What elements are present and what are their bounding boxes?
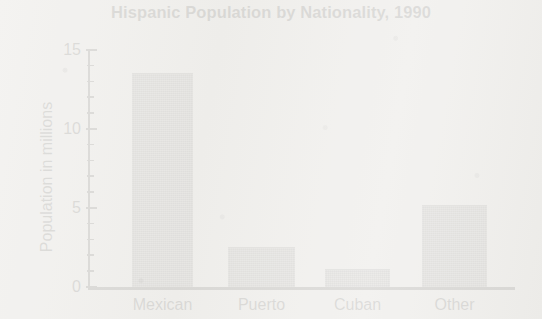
y-tick-major	[86, 128, 97, 130]
chart-title: Hispanic Population by Nationality, 1990	[0, 3, 542, 22]
y-axis-label: Population in millions	[38, 62, 56, 292]
y-tick-minor	[87, 191, 94, 193]
y-tick-label: 5	[41, 200, 81, 216]
x-axis-category-label: Other	[434, 296, 474, 314]
y-tick-minor	[87, 81, 94, 83]
y-tick-minor	[87, 96, 94, 98]
y-tick-minor	[87, 254, 94, 256]
x-axis-category-label: Puerto	[238, 296, 285, 314]
y-tick-minor	[87, 65, 94, 67]
x-axis-category-label: Mexican	[133, 296, 193, 314]
y-tick-major	[86, 49, 97, 51]
plot-area: 151050 MexicanPuertoCubanOther	[88, 46, 515, 291]
bar	[325, 269, 390, 287]
y-tick-minor	[87, 160, 94, 162]
bar	[132, 73, 193, 287]
y-tick-minor	[87, 112, 94, 114]
y-tick-major	[86, 286, 97, 288]
x-axis-line	[88, 287, 515, 290]
x-axis-category-label: Cuban	[334, 296, 381, 314]
y-tick-label: 0	[41, 279, 81, 295]
y-tick-minor	[87, 144, 94, 146]
y-tick-minor	[87, 175, 94, 177]
bar	[422, 205, 487, 287]
y-tick-minor	[87, 270, 94, 272]
y-tick-major	[86, 207, 97, 209]
bar-chart-figure: Hispanic Population by Nationality, 1990…	[0, 0, 542, 319]
bar	[228, 247, 295, 288]
y-tick-minor	[87, 239, 94, 241]
y-tick-label: 10	[41, 121, 81, 137]
y-tick-label: 15	[41, 42, 81, 58]
y-axis-line	[88, 50, 90, 288]
y-tick-minor	[87, 223, 94, 225]
